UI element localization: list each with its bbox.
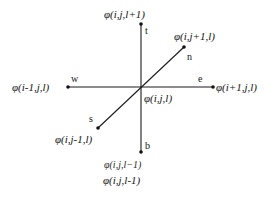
node-dot-west	[66, 85, 70, 89]
node-label-east: φ(i+1,j,l)	[216, 81, 257, 93]
node-label-center: φ(i,j,l)	[144, 92, 172, 104]
node-label-south: φ(i,j-1,l)	[55, 133, 92, 145]
node-dot-north	[182, 45, 186, 49]
node-label-north: φ(i,j+1,l)	[174, 30, 215, 42]
direction-label-top: t	[145, 25, 148, 36]
node-dot-south	[96, 126, 100, 130]
node-dot-east	[211, 85, 215, 89]
node-label-bottom: φ(i,j,l-1)	[103, 174, 140, 186]
node-label-top: φ(i,j,l+1)	[104, 8, 145, 20]
node-dot-top	[139, 22, 143, 26]
node-label-west: φ(i-1,j,l)	[12, 81, 49, 93]
node-dot-bottom	[139, 150, 143, 154]
direction-label-north: n	[187, 51, 192, 62]
direction-label-south: s	[89, 113, 93, 124]
direction-label-east: e	[198, 73, 202, 84]
stencil-diagram: φ(i,j,l+1) φ(i,j+1,l) φ(i-1,j,l) φ(i+1,j…	[0, 0, 279, 200]
direction-label-bottom: b	[145, 140, 150, 151]
node-label-bottom-duplicate: φ(i,j,l−1)	[104, 159, 141, 171]
direction-label-west: w	[71, 73, 78, 84]
